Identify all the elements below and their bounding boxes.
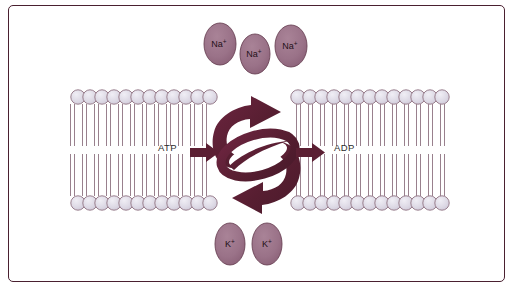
adp-label: ADP (334, 142, 355, 153)
lipid-heads-bottom-left (71, 196, 217, 210)
lipid-heads-top-left (71, 90, 217, 104)
lipid-heads-top-right (291, 90, 449, 104)
atp-label: ATP (158, 142, 177, 153)
lipid-tails-left (71, 104, 207, 196)
pump-cycle-arrows (213, 96, 301, 214)
lipid-heads-bottom-right (291, 196, 449, 210)
figure-root: Na+ Na+ Na+ K+ K+ ATP ADP (0, 0, 513, 291)
diagram-canvas: Na+ Na+ Na+ K+ K+ (0, 0, 513, 291)
